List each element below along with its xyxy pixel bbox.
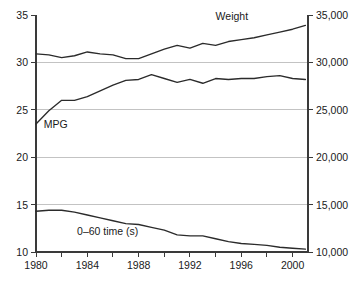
axes (36, 15, 308, 252)
left-axis-ticks (31, 15, 36, 252)
mpg-line (36, 75, 305, 124)
left-tick-label-25: 25 (16, 104, 28, 116)
x-tick-label-1996: 1996 (230, 259, 254, 271)
gridlines (36, 62, 308, 204)
weight-label: Weight (216, 10, 249, 22)
x-tick-label-2000: 2000 (281, 259, 305, 271)
left-tick-label-20: 20 (16, 151, 28, 163)
left-tick-label-10: 10 (16, 246, 28, 258)
right-tick-label-20000: 20,000 (316, 151, 348, 163)
left-axis-labels: 35 30 25 20 15 10 (16, 9, 28, 258)
weight-line (36, 25, 305, 58)
right-tick-label-35000: 35,000 (316, 9, 348, 21)
left-tick-label-30: 30 (16, 56, 28, 68)
x-tick-label-1984: 1984 (76, 259, 100, 271)
zero-sixty-label: 0–60 time (s) (77, 225, 138, 237)
right-axis-labels: 35,000 30,000 25,000 20,000 15,000 10,00… (316, 9, 348, 258)
x-tick-label-1992: 1992 (178, 259, 202, 271)
x-tick-label-1980: 1980 (24, 259, 48, 271)
mpg-label: MPG (44, 118, 68, 130)
left-tick-label-35: 35 (16, 9, 28, 21)
right-tick-label-15000: 15,000 (316, 199, 348, 211)
right-tick-label-25000: 25,000 (316, 104, 348, 116)
right-axis-ticks (308, 15, 313, 252)
x-tick-label-1988: 1988 (127, 259, 151, 271)
x-axis-ticks (36, 252, 293, 257)
right-tick-label-30000: 30,000 (316, 56, 348, 68)
x-axis-labels: 198019841988199219962000 (24, 259, 304, 271)
right-tick-label-10000: 10,000 (316, 246, 348, 258)
chart-container: 35 30 25 20 15 10 35,000 30,000 25,000 2… (0, 0, 357, 284)
left-tick-label-15: 15 (16, 199, 28, 211)
line-chart: 35 30 25 20 15 10 35,000 30,000 25,000 2… (0, 0, 357, 284)
series-lines (36, 25, 305, 249)
series-annotations: Weight MPG 0–60 time (s) (44, 10, 248, 237)
